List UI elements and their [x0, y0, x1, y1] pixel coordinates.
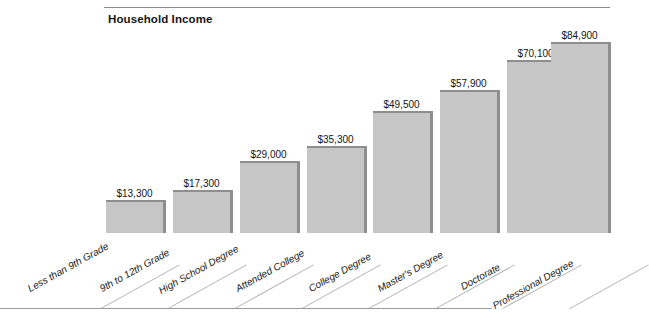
bar[interactable]: $35,300 — [307, 146, 364, 233]
bar[interactable]: $57,900 — [440, 90, 497, 233]
bar-value-label: $57,900 — [450, 78, 486, 89]
bar-value-label: $84,900 — [561, 30, 597, 41]
axis-baseline — [0, 308, 492, 309]
bar[interactable]: $29,000 — [240, 161, 297, 233]
category-label-attended-college: Attended College — [234, 247, 306, 294]
category-label-doctorate: Doctorate — [459, 261, 502, 292]
bar-value-label: $35,300 — [317, 134, 353, 145]
axis-tick-separator — [570, 264, 649, 309]
bar-value-label: $17,300 — [183, 178, 219, 189]
bar[interactable]: $49,500 — [373, 111, 430, 233]
bar[interactable]: $13,300 — [106, 200, 163, 233]
bar-value-label: $70,100 — [517, 48, 553, 59]
bar-value-label: $49,500 — [383, 99, 419, 110]
bar-value-label: $13,300 — [116, 188, 152, 199]
bar[interactable]: $17,300 — [173, 190, 230, 233]
bar[interactable]: $84,900 — [551, 42, 608, 233]
category-label-professional-degree: Professional Degree — [491, 257, 576, 311]
bar-value-label: $29,000 — [250, 149, 286, 160]
